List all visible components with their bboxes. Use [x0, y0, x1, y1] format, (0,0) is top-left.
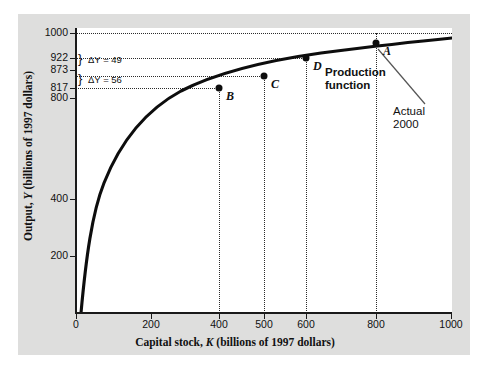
y-tick-200: [70, 256, 76, 257]
figure: B C D A } ΔY = 49 } ΔY = 56 Production f…: [0, 0, 491, 372]
data-point-label-C: C: [271, 77, 279, 92]
x-tick-label-400: 400: [210, 318, 228, 330]
y-axis-title: Output, Y (billions of 1997 dollars): [22, 36, 34, 276]
production-function-line2: function: [325, 79, 386, 92]
y-tick-400: [70, 199, 76, 200]
data-point-D: [303, 55, 310, 62]
data-point-label-A: A: [383, 44, 391, 59]
delta-y-49-label: ΔY = 49: [88, 54, 122, 65]
y-tick-817: [70, 88, 76, 89]
data-point-B: [216, 85, 223, 92]
brace-delta-56: }: [78, 72, 82, 85]
y-tick-label-922: 922: [50, 52, 68, 63]
y-tick-800: [70, 98, 76, 99]
data-point-A: [373, 40, 380, 47]
x-tick-label-200: 200: [142, 318, 160, 330]
y-axis-title-suffix: (billions of 1997 dollars): [22, 71, 34, 192]
y-tick-label-400: 400: [50, 193, 68, 204]
data-point-label-D: D: [313, 59, 322, 74]
x-axis-title: Capital stock, K (billions of 1997 dolla…: [0, 336, 470, 348]
y-tick-label-800: 800: [50, 92, 68, 103]
actual-2000-line1: Actual: [393, 105, 425, 118]
delta-y-56-label: ΔY = 56: [88, 74, 122, 85]
y-tick-873: [70, 70, 76, 71]
y-tick-label-200: 200: [50, 250, 68, 261]
production-function-label: Production function: [325, 66, 386, 92]
data-point-C: [261, 73, 268, 80]
x-axis-title-suffix: (billions of 1997 dollars): [213, 336, 334, 348]
x-axis-title-prefix: Capital stock,: [135, 336, 206, 348]
data-point-label-B: B: [226, 89, 234, 104]
x-tick-label-1000: 1000: [439, 318, 462, 330]
x-tick-label-800: 800: [367, 318, 385, 330]
actual-2000-label: Actual 2000: [393, 105, 425, 131]
y-axis-title-symbol: Y: [22, 192, 34, 199]
x-tick-label-600: 600: [297, 318, 315, 330]
brace-delta-49: }: [78, 52, 82, 65]
y-tick-label-1000: 1000: [45, 27, 68, 38]
y-tick-922: [70, 58, 76, 59]
y-tick-1000: [70, 33, 76, 34]
y-axis-title-prefix: Output,: [22, 199, 34, 241]
actual-2000-line2: 2000: [393, 118, 425, 131]
x-tick-label-500: 500: [255, 318, 273, 330]
production-function-line1: Production: [325, 66, 386, 79]
y-tick-label-873: 873: [50, 64, 68, 75]
x-tick-label-0: 0: [73, 318, 79, 330]
